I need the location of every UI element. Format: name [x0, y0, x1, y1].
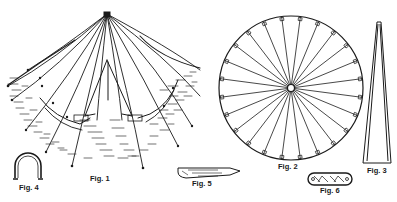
guy-ropes [8, 14, 200, 168]
fig1-tent [7, 12, 200, 169]
fig3-pole [363, 22, 391, 163]
fig6-label: Fig. 6 [320, 186, 340, 195]
fig4-staple [13, 153, 43, 179]
fig6-runner [308, 173, 352, 185]
fig1-label: Fig. 1 [90, 174, 110, 183]
fig4-label: Fig. 4 [19, 183, 39, 192]
fig5-peg [178, 168, 240, 178]
ground-hatching [8, 72, 197, 158]
tent-door [85, 60, 132, 116]
fig3-label: Fig. 3 [367, 166, 387, 175]
fig2-label: Fig. 2 [278, 162, 298, 171]
diagram-canvas [0, 0, 397, 202]
floor-hub [288, 85, 295, 92]
fig5-label: Fig. 5 [192, 179, 212, 188]
tent-apex [104, 12, 110, 17]
fig2-floor-plan [219, 16, 363, 160]
